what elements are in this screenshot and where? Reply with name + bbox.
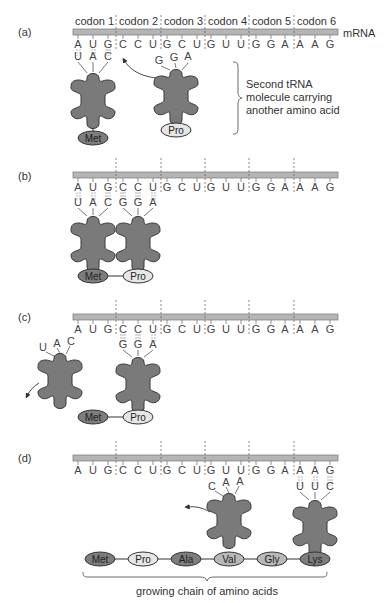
- mrna-nucleotide: U: [237, 323, 245, 335]
- codon-label-4: codon 4: [208, 15, 247, 27]
- trna-empty-leaving: U A C: [38, 335, 82, 409]
- mrna-nucleotide: U: [149, 323, 157, 335]
- mrna-label: mRNA: [343, 27, 376, 39]
- anticodon-nt: C: [208, 480, 216, 492]
- mrna-nucleotide: C: [178, 323, 186, 335]
- mrna-nucleotide: G: [267, 323, 276, 335]
- mrna-nucleotide: G: [326, 464, 335, 476]
- anticodon-nt: G: [155, 54, 164, 66]
- mrna-nucleotide: A: [74, 38, 82, 50]
- brace-icon: [83, 572, 327, 581]
- trna-body-icon: [154, 70, 198, 125]
- trna-body-icon: [293, 501, 337, 556]
- mrna-nucleotide: G: [104, 38, 113, 50]
- mrna-nucleotide: G: [163, 181, 172, 193]
- panel-label-d: (d): [18, 452, 31, 464]
- mrna-nucleotide: A: [296, 323, 304, 335]
- mrna-nucleotide: G: [104, 323, 113, 335]
- mrna-nucleotide: A: [311, 464, 319, 476]
- codon-label-5: codon 5: [252, 15, 291, 27]
- mrna-nucleotide: G: [207, 181, 216, 193]
- mrna-nucleotide: G: [267, 464, 276, 476]
- chain-caption: growing chain of amino acids: [136, 585, 278, 597]
- mrna-nucleotide: C: [119, 464, 127, 476]
- mrna-nucleotide: A: [281, 464, 289, 476]
- trna-empty-leaving: C A A: [207, 475, 251, 549]
- panel-d: (d) AUGCCUGCUGUUGGAAAG C A A U U C: [18, 441, 338, 597]
- anticodon-nt: A: [89, 50, 97, 62]
- mrna-nucleotide: C: [134, 323, 142, 335]
- mrna-nucleotide: A: [74, 464, 82, 476]
- amino-acid-label: Met: [85, 412, 102, 423]
- translation-diagram: (a) codon 1 codon 2 codon 3 codon 4 codo…: [0, 0, 390, 603]
- mrna-nucleotide: U: [193, 181, 201, 193]
- anticodon-nt: A: [222, 476, 230, 488]
- mrna-nucleotide: C: [119, 323, 127, 335]
- amino-acid-label: Pro: [130, 271, 146, 282]
- anticodon-nt: C: [67, 335, 75, 347]
- mrna-nucleotide: G: [207, 38, 216, 50]
- mrna-nucleotide: U: [222, 464, 230, 476]
- mrna-nucleotide: A: [296, 181, 304, 193]
- mrna-strand: AUGCCUGCUGUUGGAAAG: [73, 441, 338, 477]
- anticodon-nt: G: [134, 196, 143, 208]
- mrna-nucleotide: U: [89, 464, 97, 476]
- mrna-nucleotide: C: [134, 38, 142, 50]
- mrna-nucleotide: A: [281, 181, 289, 193]
- trna-body-icon: [71, 74, 115, 129]
- panel-label-c: (c): [18, 311, 31, 323]
- trna-body-icon: [116, 217, 160, 272]
- codon-label-1: codon 1: [75, 15, 114, 27]
- anticodon-nt: U: [74, 196, 82, 208]
- peptide-chain: Met Pro Ala Val Gly Lys: [85, 552, 330, 566]
- brace-icon: [233, 62, 242, 134]
- codon-label-2: codon 2: [119, 15, 158, 27]
- mrna-nucleotide: U: [237, 38, 245, 50]
- amino-acid-label: Ala: [179, 554, 194, 565]
- panel-c: (c) AUGCCUGCUGUUGGAAAG U A C G G A: [18, 300, 338, 424]
- mrna-nucleotide: U: [149, 464, 157, 476]
- trna-lys: U U C: [293, 480, 337, 558]
- mrna-nucleotide: G: [207, 464, 216, 476]
- annotation-line: Second tRNA: [246, 78, 313, 90]
- mrna-nucleotide: U: [89, 181, 97, 193]
- mrna-nucleotide: A: [281, 323, 289, 335]
- annotation-line: another amino acid: [246, 104, 340, 116]
- anticodon-nt: A: [149, 196, 157, 208]
- mrna-nucleotide: U: [89, 323, 97, 335]
- trna-pro: G G A Pro: [154, 50, 198, 137]
- mrna-nucleotide: G: [252, 323, 261, 335]
- trna-pro: G G A: [116, 196, 160, 279]
- mrna-nucleotide: U: [222, 38, 230, 50]
- mrna-nucleotide: U: [89, 38, 97, 50]
- mrna-nucleotide: C: [178, 464, 186, 476]
- mrna-nucleotide: G: [252, 38, 261, 50]
- anticodon-nt: C: [326, 480, 334, 492]
- panel-b: (b) AUGCCUGCUGUUGGAAAG U A C G G: [18, 158, 338, 283]
- mrna-nucleotide: G: [104, 181, 113, 193]
- peptide-chain: Met Pro: [78, 410, 153, 424]
- mrna-nucleotide: G: [252, 181, 261, 193]
- anticodon-nt: A: [53, 337, 61, 349]
- mrna-nucleotide: C: [119, 38, 127, 50]
- anticodon-nt: G: [134, 338, 143, 350]
- mrna-nucleotide: A: [311, 38, 319, 50]
- mrna-nucleotide: A: [281, 38, 289, 50]
- mrna-nucleotide: U: [193, 323, 201, 335]
- mrna-nucleotide: U: [222, 323, 230, 335]
- mrna-nucleotide: G: [326, 38, 335, 50]
- mrna-nucleotide: G: [163, 38, 172, 50]
- mrna-nucleotide: G: [267, 38, 276, 50]
- mrna-nucleotide: G: [326, 181, 335, 193]
- mrna-nucleotide: A: [296, 464, 304, 476]
- mrna-bar: [73, 314, 338, 320]
- mrna-nucleotide: U: [237, 181, 245, 193]
- trna-body-icon: [38, 354, 82, 409]
- anticodon-nt: U: [39, 341, 47, 353]
- panel-label-a: (a): [18, 26, 31, 38]
- amino-acid-label: Met: [85, 133, 102, 144]
- codon-labels: codon 1 codon 2 codon 3 codon 4 codon 5 …: [75, 15, 336, 27]
- mrna-nucleotide: G: [252, 464, 261, 476]
- arrow-icon: [27, 383, 39, 396]
- trna-pro: G G A: [116, 338, 160, 417]
